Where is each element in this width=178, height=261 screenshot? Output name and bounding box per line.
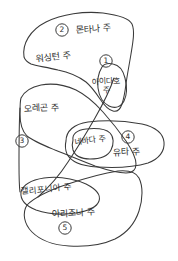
marker-label-4: 4 (122, 131, 134, 143)
state-label-idaho: 아이다호 주 (89, 76, 124, 96)
oregon-left-edge (19, 108, 20, 192)
oregon-outline (20, 84, 136, 173)
hand-drawn-map: 2 1 3 4 5 몬타나 주 워싱턴 주 아이다호 주 오레곤 주 네바다 주… (0, 0, 178, 261)
marker-label-1: 1 (100, 55, 112, 67)
state-label-utah: 유타 주 (113, 146, 140, 157)
map-outlines-svg (0, 0, 178, 261)
state-label-oregon: 오레곤 주 (24, 102, 59, 114)
marker-label-5: 5 (59, 222, 71, 234)
marker-label-2: 2 (56, 24, 68, 36)
marker-label-3: 3 (16, 135, 28, 147)
